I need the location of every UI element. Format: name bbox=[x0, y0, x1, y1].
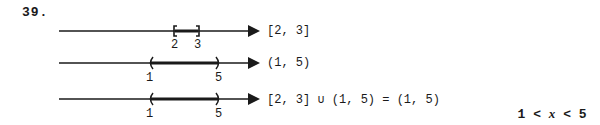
arrow-right-icon bbox=[248, 57, 260, 69]
number-line-1 bbox=[59, 25, 260, 37]
interval-text-3: [2, 3] ∪ (1, 5) = (1, 5) bbox=[267, 92, 440, 107]
tick-label: 3 bbox=[194, 38, 201, 52]
tick-label: 5 bbox=[215, 71, 222, 85]
inequality-answer: 1 < x < 5 bbox=[502, 91, 587, 122]
tick-label: 1 bbox=[146, 107, 153, 121]
number-line-2 bbox=[59, 57, 260, 69]
interval-text-2: (1, 5) bbox=[267, 56, 310, 70]
arrow-right-icon bbox=[248, 93, 260, 105]
arrow-right-icon bbox=[248, 25, 260, 37]
number-line-3 bbox=[59, 93, 260, 105]
inequality-text: 1 < x < 5 bbox=[518, 107, 587, 122]
interval-text-1: [2, 3] bbox=[267, 24, 310, 38]
tick-label: 1 bbox=[146, 71, 153, 85]
tick-label: 2 bbox=[171, 38, 178, 52]
tick-label: 5 bbox=[215, 107, 222, 121]
